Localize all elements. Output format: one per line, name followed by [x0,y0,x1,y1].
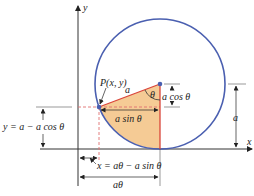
a-height-label: a [233,112,238,123]
point-label: P(x, y) [99,77,127,89]
x-axis-label: x [246,136,252,147]
x-equation-label: x = aθ − a sin θ [96,160,162,171]
center-point [158,82,163,87]
theta-label: θ [150,89,155,100]
a-sin-label: a sin θ [115,113,142,124]
a-theta-label: aθ [113,179,123,190]
cycloid-diagram: y x P(x, y) a θ a cos θ a sin θ y = a − … [0,0,254,196]
y-axis-label: y [82,2,88,13]
point-p [97,105,102,110]
radius-label: a [125,84,130,95]
y-equation-label: y = a − a cos θ [2,121,64,132]
x-label-pointer [90,158,96,164]
a-cos-label: a cos θ [162,91,190,102]
point-label-arrow [100,88,106,104]
